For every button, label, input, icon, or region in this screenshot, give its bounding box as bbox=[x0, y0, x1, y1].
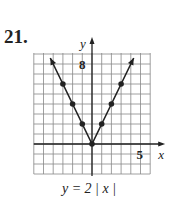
svg-text:8: 8 bbox=[79, 57, 86, 72]
svg-text:5: 5 bbox=[137, 147, 144, 162]
svg-text:y: y bbox=[78, 36, 86, 51]
graph: yx58 bbox=[0, 0, 178, 203]
svg-text:x: x bbox=[157, 147, 164, 162]
equation-label: y = 2 | x | bbox=[0, 181, 178, 197]
